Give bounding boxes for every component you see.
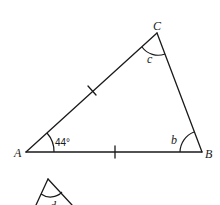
angle-arc-c	[142, 47, 165, 55]
second-figure-angle-label: d	[50, 199, 57, 205]
triangle-diagram: A B C 44° b c d	[0, 0, 220, 205]
tick-mark-ac	[88, 86, 96, 95]
side-ac	[26, 33, 157, 152]
angle-arc-a	[47, 133, 54, 152]
angle-arc-b	[180, 132, 194, 152]
second-figure-left-side	[36, 179, 48, 205]
vertex-label-c: C	[153, 19, 162, 33]
vertex-label-b: B	[205, 147, 213, 161]
vertex-label-a: A	[13, 146, 22, 160]
second-figure-angle-arc	[41, 192, 62, 197]
angle-label-b: b	[171, 133, 177, 147]
angle-label-a: 44°	[55, 137, 70, 148]
angle-label-c: c	[147, 52, 153, 66]
side-bc	[157, 33, 202, 152]
